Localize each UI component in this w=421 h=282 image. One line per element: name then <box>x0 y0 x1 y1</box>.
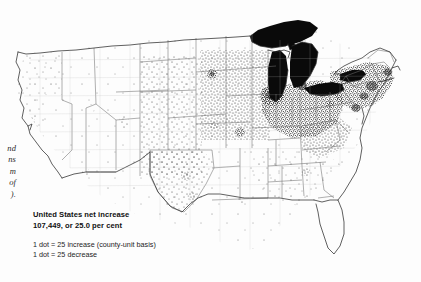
legend-title-line-1: United States net increase <box>33 210 218 221</box>
figure-page: nd ns m of ). United States net increase… <box>0 0 421 282</box>
density-minneapolis-core <box>210 72 214 76</box>
legend-rule-increase: 1 dot = 25 increase (county-unit basis) <box>33 240 218 249</box>
density-salt-lake <box>89 104 96 112</box>
density-dallas <box>181 171 191 181</box>
density-kansas-city <box>210 121 218 128</box>
legend-title-line-2: 107,449, or 25.0 per cent <box>33 221 218 232</box>
density-st-louis <box>235 128 245 137</box>
density-houston <box>188 192 197 200</box>
density-new-york <box>366 81 378 91</box>
map-legend: United States net increase 107,449, or 2… <box>33 210 218 259</box>
margin-caption: nd ns m of ). <box>0 143 16 200</box>
legend-rule-decrease: 1 dot = 25 decrease <box>33 250 218 259</box>
legend-rules: 1 dot = 25 increase (county-unit basis) … <box>33 240 218 259</box>
density-denver <box>119 115 129 129</box>
density-philadelphia <box>360 92 369 99</box>
density-atlanta <box>302 168 311 176</box>
